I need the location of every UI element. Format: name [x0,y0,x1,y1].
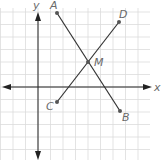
label-A: A [49,0,58,12]
grid [0,8,150,160]
point-C [55,100,59,104]
x-axis-arrow-left-icon [2,84,11,90]
coordinate-plane-diagram: x y A B C D M [0,0,161,163]
y-axis-arrow-down-icon [35,151,41,160]
y-axis-label: y [32,0,40,12]
label-D: D [119,8,127,21]
label-B: B [122,111,130,124]
label-C: C [46,100,54,113]
diagram-svg: x y A B C D M [0,0,161,163]
x-axis-label: x [153,81,161,94]
point-M [86,60,90,64]
x-axis-arrow-right-icon [143,84,152,90]
label-M: M [94,56,104,69]
y-axis-arrow-up-icon [35,12,41,21]
